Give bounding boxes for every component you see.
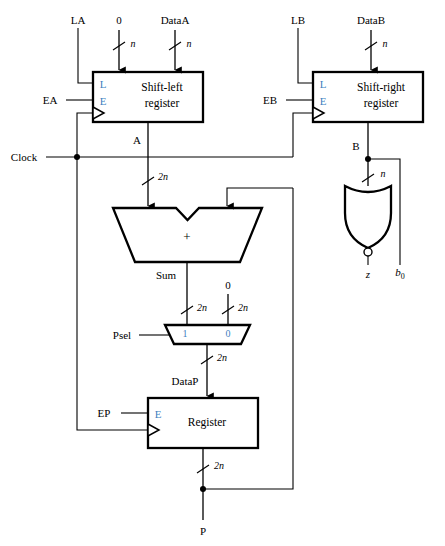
label-data-b: DataB bbox=[357, 15, 385, 26]
label-p: P bbox=[200, 526, 206, 537]
wire-mux-zero-input bbox=[222, 294, 234, 325]
label-ep: EP bbox=[98, 408, 111, 419]
wire-lb bbox=[298, 28, 313, 83]
wire-data-a bbox=[169, 30, 181, 70]
label-sum: Sum bbox=[156, 270, 176, 281]
nor-gate bbox=[345, 186, 391, 265]
mux-input-zero: 0 bbox=[226, 329, 231, 339]
register-label: Register bbox=[188, 417, 226, 429]
label-width-n-zero-a: n bbox=[131, 39, 136, 49]
wire-zero-a bbox=[113, 30, 125, 70]
label-mux-zero: 0 bbox=[225, 280, 231, 291]
label-z: z bbox=[366, 269, 370, 280]
label-width-n-b: n bbox=[381, 169, 386, 179]
wire-la bbox=[78, 28, 93, 83]
label-width-2n-datap: 2n bbox=[217, 353, 227, 363]
register-port-e: E bbox=[155, 409, 162, 420]
wire-a-bus bbox=[142, 122, 154, 206]
label-clock: Clock bbox=[11, 152, 37, 163]
figure-canvas: LA 0 DataA n n LB DataB n EA EB L E Shif… bbox=[0, 0, 445, 546]
label-width-n-data-b: n bbox=[383, 39, 388, 49]
shift-left-port-e: E bbox=[100, 96, 107, 107]
label-b0: b0 bbox=[395, 267, 405, 281]
label-width-2n-p: 2n bbox=[214, 461, 224, 471]
shift-right-label-line1: Shift-right bbox=[357, 82, 405, 94]
label-ea: EA bbox=[43, 95, 58, 106]
wire-sum bbox=[181, 262, 193, 325]
label-b-bus: B bbox=[352, 141, 359, 152]
wire-datap bbox=[201, 344, 213, 396]
label-width-2n-zero: 2n bbox=[238, 303, 248, 313]
shift-right-port-e: E bbox=[320, 96, 327, 107]
shift-right-port-l: L bbox=[320, 79, 327, 90]
mux-block bbox=[165, 325, 250, 344]
shift-left-label-line2: register bbox=[145, 98, 179, 110]
label-zero-a: 0 bbox=[116, 15, 122, 26]
label-width-2n-a: 2n bbox=[158, 172, 168, 182]
wire-data-b bbox=[365, 30, 377, 70]
label-eb: EB bbox=[263, 95, 277, 106]
label-a-bus: A bbox=[133, 135, 141, 146]
wire-adder-right-input bbox=[227, 188, 293, 206]
adder-plus-symbol: + bbox=[183, 230, 190, 243]
label-lb: LB bbox=[291, 15, 305, 26]
label-la: LA bbox=[71, 15, 86, 26]
label-psel: Psel bbox=[113, 330, 131, 341]
label-width-n-data-a: n bbox=[187, 39, 192, 49]
shift-left-label-line1: Shift-left bbox=[141, 82, 183, 94]
shift-right-label-line2: register bbox=[364, 98, 398, 110]
label-width-2n-sum: 2n bbox=[197, 303, 207, 313]
label-datap: DataP bbox=[172, 376, 199, 387]
shift-left-port-l: L bbox=[100, 79, 107, 90]
label-data-a: DataA bbox=[161, 15, 190, 26]
label-b0-subscript: 0 bbox=[401, 272, 405, 281]
mux-input-one: 1 bbox=[183, 329, 188, 339]
wire-p-output bbox=[197, 448, 209, 520]
